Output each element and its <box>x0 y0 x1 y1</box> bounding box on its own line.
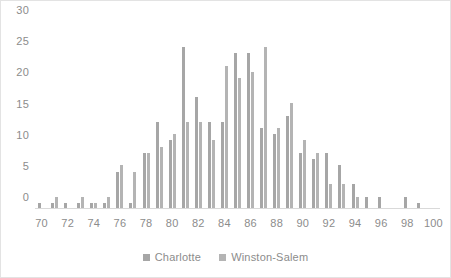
x-axis-tick: 82 <box>192 217 205 233</box>
bar-winston-salem-90 <box>303 140 306 209</box>
x-axis-tick: 78 <box>140 217 153 233</box>
x-axis-tick-label: 74 <box>87 217 100 229</box>
x-axis-tick-label: 86 <box>244 217 257 229</box>
bar-charlotte-85 <box>234 53 237 209</box>
bar-winston-salem-76 <box>120 165 123 209</box>
bar-group <box>244 22 257 209</box>
x-axis-tick-label: 100 <box>424 217 443 229</box>
bar-charlotte-92 <box>325 153 328 209</box>
bar-charlotte-87 <box>260 128 263 209</box>
x-axis-tick-label: 78 <box>140 217 153 229</box>
bar-group <box>126 22 139 209</box>
bar-winston-salem-80 <box>173 134 176 209</box>
x-axis-tick: 98 <box>401 217 414 233</box>
x-axis-tick-label: 94 <box>349 217 362 229</box>
bar-group <box>218 22 231 209</box>
bar-group <box>113 22 126 209</box>
bar-winston-salem-92 <box>329 184 332 209</box>
x-axis-tick-label: 80 <box>166 217 179 229</box>
x-axis-tick: 74 <box>87 217 100 233</box>
x-axis-tick-label: 82 <box>192 217 205 229</box>
bar-group <box>375 22 388 209</box>
bar-winston-salem-84 <box>225 66 228 209</box>
legend-label: Charlotte <box>155 251 201 263</box>
bar-winston-salem-81 <box>186 122 189 209</box>
bar-series-layer <box>35 22 440 209</box>
bar-group <box>74 22 87 209</box>
y-axis-tick-label: 10 <box>16 129 29 141</box>
bar-group <box>349 22 362 209</box>
legend-label: Winston-Salem <box>231 251 308 263</box>
x-axis-tick: 100 <box>427 217 440 233</box>
bar-charlotte-80 <box>169 140 172 209</box>
bar-group <box>153 22 166 209</box>
bar-charlotte-88 <box>273 134 276 209</box>
x-axis-tick: 84 <box>218 217 231 233</box>
x-axis-tick <box>257 217 270 233</box>
x-axis-tick: 90 <box>296 217 309 233</box>
x-axis-tick <box>153 217 166 233</box>
bar-group <box>296 22 309 209</box>
bar-group <box>192 22 205 209</box>
x-axis-tick <box>231 217 244 233</box>
x-axis-tick-label: 98 <box>401 217 414 229</box>
bar-group <box>309 22 322 209</box>
legend-swatch-icon <box>219 254 226 261</box>
bar-group <box>270 22 283 209</box>
x-axis-tick: 76 <box>113 217 126 233</box>
y-axis-tick-label: 20 <box>16 66 29 78</box>
plot-area: 051015202530 <box>35 22 440 209</box>
bar-group <box>427 22 440 209</box>
x-axis-tick-label: 72 <box>61 217 74 229</box>
x-axis-tick-label: 90 <box>296 217 309 229</box>
x-axis-tick: 80 <box>166 217 179 233</box>
bar-charlotte-81 <box>182 47 185 209</box>
bar-group <box>335 22 348 209</box>
bar-charlotte-93 <box>338 165 341 209</box>
bar-charlotte-89 <box>286 116 289 210</box>
legend-item-winston-salem[interactable]: Winston-Salem <box>219 251 308 263</box>
x-axis-tick-label: 88 <box>270 217 283 229</box>
bar-group <box>414 22 427 209</box>
bar-charlotte-83 <box>208 122 211 209</box>
x-axis: 707274767880828486889092949698100 <box>35 217 440 233</box>
bar-charlotte-82 <box>195 97 198 209</box>
bar-charlotte-76 <box>116 172 119 209</box>
bar-group <box>100 22 113 209</box>
x-axis-tick <box>283 217 296 233</box>
legend-item-charlotte[interactable]: Charlotte <box>143 251 201 263</box>
bar-group <box>87 22 100 209</box>
x-axis-tick: 70 <box>35 217 48 233</box>
x-axis-tick-label: 84 <box>218 217 231 229</box>
bar-winston-salem-77 <box>133 172 136 209</box>
bar-group <box>166 22 179 209</box>
chart-legend: CharlotteWinston-Salem <box>1 251 450 263</box>
bar-winston-salem-86 <box>251 72 254 209</box>
x-axis-tick: 72 <box>61 217 74 233</box>
bar-winston-salem-88 <box>277 128 280 209</box>
bar-group <box>322 22 335 209</box>
bar-charlotte-94 <box>352 184 355 209</box>
y-axis-tick-label: 15 <box>16 98 29 110</box>
x-axis-tick <box>48 217 61 233</box>
chart-container: 051015202530 707274767880828486889092949… <box>0 0 451 278</box>
x-axis-tick-label: 76 <box>114 217 127 229</box>
x-axis-tick <box>362 217 375 233</box>
bar-group <box>257 22 270 209</box>
bar-winston-salem-78 <box>147 153 150 209</box>
x-axis-tick-label: 70 <box>35 217 48 229</box>
bar-winston-salem-83 <box>212 140 215 209</box>
bar-winston-salem-79 <box>160 147 163 209</box>
bar-group <box>283 22 296 209</box>
bar-group <box>48 22 61 209</box>
x-axis-tick <box>100 217 113 233</box>
x-axis-tick: 88 <box>270 217 283 233</box>
bar-charlotte-91 <box>312 159 315 209</box>
bar-group <box>35 22 48 209</box>
bar-group <box>388 22 401 209</box>
x-axis-tick: 92 <box>322 217 335 233</box>
y-axis-tick-label: 0 <box>23 191 29 203</box>
x-axis-tick <box>309 217 322 233</box>
x-axis-tick-label: 96 <box>375 217 388 229</box>
x-axis-tick: 86 <box>244 217 257 233</box>
